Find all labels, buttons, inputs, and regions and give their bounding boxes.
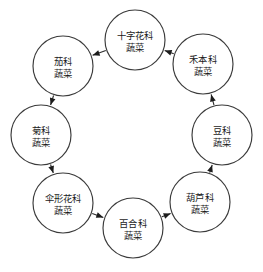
arrow-head-icon	[50, 97, 56, 105]
node-label-line1: 菊科	[32, 125, 50, 136]
node-umbelliferae[interactable]: 伞形花科蔬菜	[33, 173, 93, 233]
node-cucurbitaceae[interactable]: 葫芦科蔬菜	[170, 172, 230, 232]
arrow-head-icon	[48, 165, 54, 173]
node-label-line1: 禾本科	[189, 54, 217, 65]
node-label-line1: 十字花科	[117, 30, 154, 41]
cycle-arrow-umbelliferae-to-liliaceae	[92, 212, 103, 217]
node-label-line1: 茄科	[54, 56, 72, 67]
vegetable-rotation-cycle-diagram: 十字花科蔬菜禾本科蔬菜豆科蔬菜葫芦科蔬菜百合科蔬菜伞形花科蔬菜菊科蔬菜茄科蔬菜	[0, 0, 263, 272]
arrow-head-icon	[93, 50, 101, 55]
cycle-arrow-leguminosae-to-gramineae	[210, 94, 216, 105]
node-label-line2: 蔬菜	[32, 137, 50, 148]
node-cruciferae[interactable]: 十字花科蔬菜	[105, 10, 165, 70]
node-leguminosae[interactable]: 豆科蔬菜	[192, 105, 252, 165]
node-gramineae[interactable]: 禾本科蔬菜	[173, 34, 233, 94]
node-label-line2: 蔬菜	[213, 137, 231, 148]
cycle-diagram-canvas: 十字花科蔬菜禾本科蔬菜豆科蔬菜葫芦科蔬菜百合科蔬菜伞形花科蔬菜菊科蔬菜茄科蔬菜	[0, 0, 263, 272]
node-label-line2: 蔬菜	[124, 230, 142, 241]
node-label-line2: 蔬菜	[54, 205, 72, 216]
node-compositae[interactable]: 菊科蔬菜	[11, 105, 71, 165]
node-solanaceae[interactable]: 茄科蔬菜	[33, 36, 93, 96]
node-label-compositae: 菊科蔬菜	[32, 125, 50, 148]
node-label-line1: 葫芦科	[186, 192, 214, 203]
cycle-arrow-liliaceae-to-cucurbitaceae	[162, 213, 171, 218]
node-label-line1: 伞形花科	[45, 193, 82, 204]
arrow-head-icon	[165, 50, 173, 55]
node-label-line2: 蔬菜	[126, 42, 144, 53]
node-label-solanaceae: 茄科蔬菜	[54, 56, 72, 79]
cycle-arrow-compositae-to-umbelliferae	[48, 164, 54, 173]
cycle-arrow-solanaceae-to-compositae	[50, 96, 56, 105]
arrow-head-icon	[207, 165, 213, 173]
node-label-line2: 蔬菜	[54, 68, 72, 79]
node-label-line1: 百合科	[119, 218, 147, 229]
cycle-arrow-gramineae-to-cruciferae	[165, 50, 174, 55]
node-label-line1: 豆科	[213, 125, 231, 136]
cycle-arrow-cruciferae-to-solanaceae	[93, 50, 106, 55]
node-label-line2: 蔬菜	[194, 66, 212, 77]
arrow-head-icon	[96, 212, 104, 217]
node-label-line2: 蔬菜	[191, 204, 209, 215]
cycle-arrow-cucurbitaceae-to-leguminosae	[207, 165, 213, 173]
node-liliaceae[interactable]: 百合科蔬菜	[103, 198, 163, 258]
node-label-leguminosae: 豆科蔬菜	[213, 125, 231, 148]
arrow-head-icon	[163, 213, 171, 218]
nodes-layer: 十字花科蔬菜禾本科蔬菜豆科蔬菜葫芦科蔬菜百合科蔬菜伞形花科蔬菜菊科蔬菜茄科蔬菜	[11, 10, 252, 258]
